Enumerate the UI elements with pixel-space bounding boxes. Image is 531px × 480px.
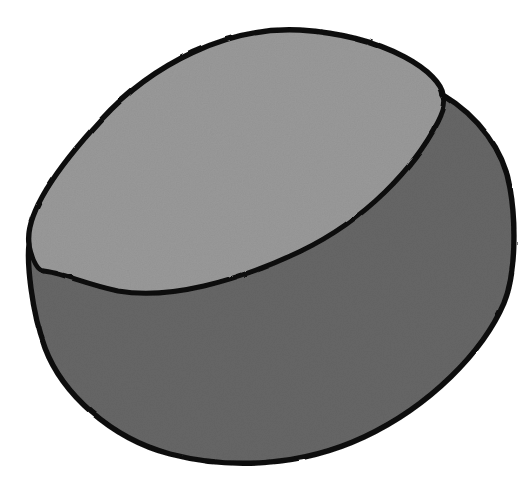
cylinder-illustration: Hand-drawn grey cylinder A hand-drawn th…	[0, 0, 531, 480]
illustration-canvas: Hand-drawn grey cylinder A hand-drawn th…	[0, 0, 531, 480]
